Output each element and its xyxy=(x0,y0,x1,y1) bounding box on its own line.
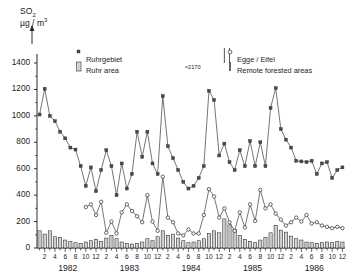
x-axis-year-label: 1982 xyxy=(52,263,84,273)
x-tick-label: 2 xyxy=(41,253,49,260)
x-tick-label: 12 xyxy=(277,253,285,260)
x-tick-label: 6 xyxy=(61,253,69,260)
x-tick-label: 4 xyxy=(174,253,182,260)
x-tick-label: 4 xyxy=(113,253,121,260)
x-axis-year-label: 1986 xyxy=(298,263,330,273)
x-tick-label: 10 xyxy=(267,253,275,260)
x-tick-label: 2 xyxy=(164,253,172,260)
x-tick-label: 10 xyxy=(143,253,151,260)
x-tick-label: 4 xyxy=(51,253,59,260)
x-tick-label: 10 xyxy=(82,253,90,260)
y-tick-label: 600 xyxy=(4,164,30,173)
x-tick-label: 10 xyxy=(205,253,213,260)
x-tick-label: 12 xyxy=(154,253,162,260)
x-axis-year-label: 1985 xyxy=(237,263,269,273)
y-tick-label: 1400 xyxy=(4,58,30,67)
plot-canvas xyxy=(0,0,353,276)
x-tick-label: 6 xyxy=(246,253,254,260)
y-tick-label: 0 xyxy=(4,243,30,252)
x-tick-label: 12 xyxy=(338,253,346,260)
x-axis-year-label: 1983 xyxy=(113,263,145,273)
x-tick-label: 8 xyxy=(318,253,326,260)
x-tick-label: 4 xyxy=(297,253,305,260)
so2-timeseries-chart: SO2 µg / m3 Ruhrgebiet Ruhr area Egge / … xyxy=(0,0,353,276)
x-tick-label: 6 xyxy=(308,253,316,260)
y-tick-label: 800 xyxy=(4,137,30,146)
x-tick-label: 8 xyxy=(195,253,203,260)
y-tick-label: 200 xyxy=(4,217,30,226)
x-axis-year-label: 1984 xyxy=(175,263,207,273)
x-tick-label: 2 xyxy=(287,253,295,260)
y-tick-label: 1000 xyxy=(4,111,30,120)
y-tick-label: 1200 xyxy=(4,84,30,93)
x-tick-label: 8 xyxy=(133,253,141,260)
x-tick-label: 12 xyxy=(215,253,223,260)
x-tick-label: 2 xyxy=(226,253,234,260)
x-tick-label: 6 xyxy=(123,253,131,260)
x-tick-label: 12 xyxy=(92,253,100,260)
x-tick-label: 4 xyxy=(236,253,244,260)
x-tick-label: 6 xyxy=(184,253,192,260)
x-tick-label: 8 xyxy=(256,253,264,260)
x-tick-label: 10 xyxy=(328,253,336,260)
x-tick-label: 2 xyxy=(102,253,110,260)
x-tick-label: 8 xyxy=(72,253,80,260)
y-tick-label: 400 xyxy=(4,190,30,199)
